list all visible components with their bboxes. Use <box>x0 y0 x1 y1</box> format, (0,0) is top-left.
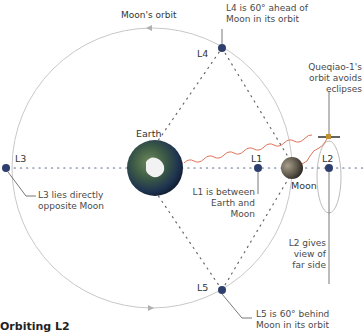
l2-annotation-line3: far side <box>280 260 326 271</box>
l5-annotation-line2: Moon in its orbit <box>256 320 329 331</box>
queqiao-annotation-line2: orbit avoids <box>272 73 362 84</box>
l3-label: L3 <box>15 153 26 164</box>
l4-annotation-line1: L4 is 60° ahead of <box>226 3 308 14</box>
queqiao-satellite-icon <box>318 134 340 139</box>
l3-annotation-line1: L3 lies directly <box>38 190 104 201</box>
queqiao-annotation: Queqiao-1's orbit avoids eclipses <box>272 62 362 95</box>
l3-annotation: L3 lies directly opposite Moon <box>38 190 104 212</box>
l2-annotation-line2: view of <box>280 249 326 260</box>
lagrange-point-l5 <box>218 286 226 294</box>
orbit-arrow-top-icon <box>146 25 152 31</box>
l1-annotation-line2: Earth and <box>180 198 255 209</box>
l4-annotation: L4 is 60° ahead of Moon in its orbit <box>226 3 308 25</box>
lagrange-point-l4 <box>218 44 226 52</box>
l5-annotation: L5 is 60° behind Moon in its orbit <box>256 309 329 331</box>
footer-title: Orbiting L2 <box>0 320 70 333</box>
l2-label: L2 <box>322 153 333 164</box>
lagrange-point-l3 <box>2 164 10 172</box>
moon-orbit-label: Moon's orbit <box>121 10 176 21</box>
moon-label: Moon <box>291 180 317 191</box>
l1-label: L1 <box>251 153 262 164</box>
moon <box>281 157 303 179</box>
l5-label: L5 <box>197 282 208 293</box>
l2-annotation: L2 gives view of far side <box>280 238 326 271</box>
earth-label: Earth <box>136 128 161 139</box>
l3-annotation-line2: opposite Moon <box>38 201 104 212</box>
l1-annotation-line1: L1 is between <box>180 187 255 198</box>
l2-annotation-line1: L2 gives <box>280 238 326 249</box>
l4-annotation-line2: Moon in its orbit <box>226 14 308 25</box>
queqiao-annotation-line3: eclipses <box>272 84 362 95</box>
l4-label: L4 <box>197 48 208 59</box>
queqiao-annotation-line1: Queqiao-1's <box>272 62 362 73</box>
l1-annotation: L1 is between Earth and Moon <box>180 187 255 220</box>
l5-annotation-line1: L5 is 60° behind <box>256 309 329 320</box>
lagrange-point-l2 <box>325 164 333 172</box>
lagrange-point-l1 <box>254 164 262 172</box>
l1-annotation-line3: Moon <box>180 209 255 220</box>
orbit-arrow-bottom-icon <box>148 305 154 311</box>
